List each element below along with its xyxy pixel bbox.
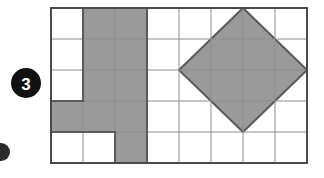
shaded-cell [115, 101, 147, 132]
shaded-cell [115, 39, 147, 70]
shaded-cell [83, 8, 115, 39]
grid-shapes-figure: 3 [0, 0, 324, 178]
shaded-cell [83, 39, 115, 70]
shaded-cell [115, 70, 147, 101]
badge-number-label: 3 [21, 75, 30, 94]
shaded-cell [115, 132, 147, 163]
shaded-cell [51, 101, 83, 132]
shaded-cell [115, 8, 147, 39]
question-number-badge: 3 [11, 68, 41, 98]
shaded-cell [83, 101, 115, 132]
figure-canvas: 3 [0, 0, 324, 178]
shaded-cell [83, 70, 115, 101]
